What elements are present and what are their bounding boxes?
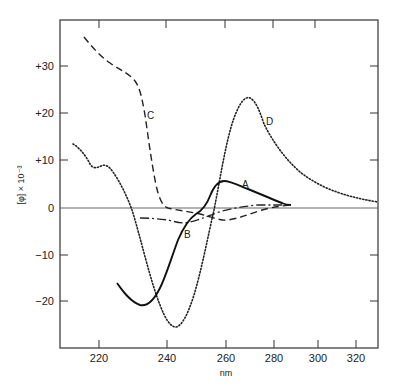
- y-tick-label: +10: [35, 154, 54, 166]
- cd-spectra-chart: +30 +20 +10 0 −10 −20 220 240 260 280 30…: [0, 0, 396, 387]
- y-tick-label: 0: [48, 202, 54, 214]
- x-tick-label: 260: [217, 352, 235, 364]
- y-tick-label: +20: [35, 107, 54, 119]
- curve-label-a: A: [242, 179, 249, 190]
- x-tick-labels: 220 240 260 280 300 320: [90, 352, 365, 364]
- x-tick-label: 300: [309, 352, 327, 364]
- x-tick-label: 320: [347, 352, 365, 364]
- x-tick-label: 240: [158, 352, 176, 364]
- x-axis-title: nm: [220, 368, 233, 378]
- curve-label-d: D: [266, 116, 273, 127]
- x-tick-label: 220: [90, 352, 108, 364]
- y-tick-label: −20: [35, 295, 54, 307]
- y-tick-labels: +30 +20 +10 0 −10 −20: [35, 60, 54, 307]
- curve-a: [117, 181, 291, 305]
- x-tick-label: 280: [265, 352, 283, 364]
- curve-label-b: B: [184, 229, 191, 240]
- y-tick-label: +30: [35, 60, 54, 72]
- curve-d: [73, 98, 378, 327]
- y-tick-label: −10: [35, 249, 54, 261]
- curve-label-c: C: [147, 110, 154, 121]
- y-axis-title: [φ] × 10⁻³: [16, 165, 26, 204]
